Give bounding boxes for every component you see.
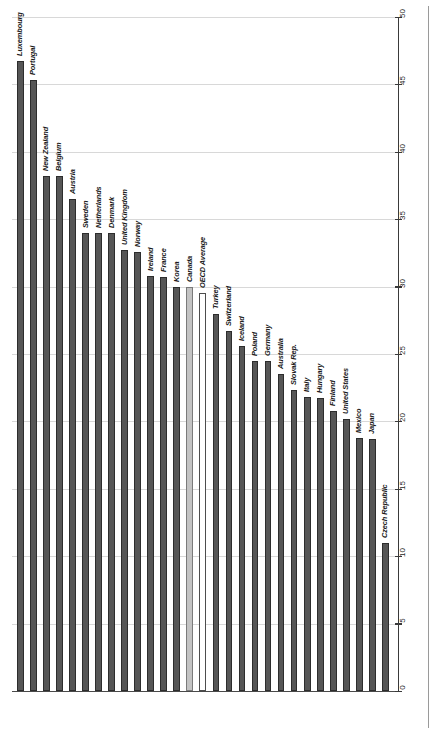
plot-area: LuxembourgPortugalNew ZealandBelgiumAust…	[12, 18, 398, 692]
bar[interactable]	[56, 176, 63, 691]
bar-slot: Austria	[69, 17, 76, 691]
bar[interactable]	[160, 277, 167, 691]
bar-slot: Germany	[265, 17, 272, 691]
bar-category-label: Denmark	[107, 197, 116, 228]
bar-slot: OECD Average	[199, 17, 206, 691]
bar-category-label: United Kingdom	[120, 190, 129, 246]
bar-slot: Japan	[369, 17, 376, 691]
bar[interactable]	[252, 361, 259, 691]
bar-category-label: Turkey	[211, 285, 220, 309]
axis-tick-label: 0	[398, 685, 407, 689]
bar-slot: Australia	[278, 17, 285, 691]
bar[interactable]	[82, 233, 89, 691]
bar-slot: Italy	[304, 17, 311, 691]
bar-slot: Czech Republic	[382, 17, 389, 691]
bar[interactable]	[343, 419, 350, 691]
bar-slot: Norway	[134, 17, 141, 691]
bar[interactable]	[108, 233, 115, 691]
bar-slot: United States	[343, 17, 350, 691]
page-margin-rule	[428, 6, 429, 728]
axis-tick-label: 15	[398, 481, 407, 490]
bar[interactable]	[147, 276, 154, 691]
bar-category-label: Netherlands	[94, 186, 103, 228]
bar-slot: Belgium	[56, 17, 63, 691]
bar-category-label: Australia	[276, 339, 285, 370]
bar-slot: United Kingdom	[121, 17, 128, 691]
bar-category-label: OECD Average	[198, 237, 207, 288]
bar[interactable]	[30, 80, 37, 691]
bar[interactable]	[43, 176, 50, 691]
bar-slot: France	[160, 17, 167, 691]
bar-category-label: Sweden	[81, 200, 90, 227]
axis-tick-label: 45	[398, 76, 407, 85]
bar[interactable]	[213, 314, 220, 691]
bar-category-label: Slovak Rep.	[289, 345, 298, 386]
bar-category-label: New Zealand	[41, 127, 50, 171]
bar[interactable]	[356, 438, 363, 691]
bar[interactable]	[304, 397, 311, 691]
bar-category-label: Luxembourg	[15, 13, 24, 57]
bar[interactable]	[369, 439, 376, 691]
bar-slot: Canada	[186, 17, 193, 691]
bar-slot: Hungary	[317, 17, 324, 691]
bar[interactable]	[199, 293, 206, 691]
bar-slot: Portugal	[30, 17, 37, 691]
bar[interactable]	[239, 346, 246, 691]
bar-category-label: Mexico	[354, 408, 363, 432]
bar-category-label: Canada	[185, 256, 194, 282]
bar-slot: Slovak Rep.	[291, 17, 298, 691]
axis-tick-label: 20	[398, 413, 407, 422]
bar[interactable]	[69, 199, 76, 691]
bar-series: LuxembourgPortugalNew ZealandBelgiumAust…	[17, 18, 398, 691]
axis-tick	[395, 623, 402, 624]
bar-category-label: Germany	[263, 324, 272, 355]
bar-category-label: Poland	[250, 332, 259, 356]
bar-category-label: Finland	[328, 380, 337, 406]
axis-tick-label: 10	[398, 548, 407, 557]
bar[interactable]	[330, 411, 337, 691]
axis-tick-label: 35	[398, 211, 407, 220]
bar-category-label: Norway	[133, 220, 142, 246]
bar-category-label: Japan	[367, 413, 376, 434]
bar[interactable]	[278, 374, 285, 691]
bar-chart: LuxembourgPortugalNew ZealandBelgiumAust…	[0, 0, 437, 735]
bar-category-label: Portugal	[28, 46, 37, 75]
bar[interactable]	[382, 543, 389, 691]
bar-category-label: Iceland	[237, 316, 246, 341]
bar-slot: Ireland	[147, 17, 154, 691]
bar[interactable]	[134, 252, 141, 691]
bar-category-label: Korea	[172, 261, 181, 281]
bar-slot: New Zealand	[43, 17, 50, 691]
bar-category-label: Belgium	[54, 143, 63, 171]
bar[interactable]	[173, 287, 180, 691]
bar[interactable]	[186, 287, 193, 691]
bar-slot: Luxembourg	[17, 17, 24, 691]
bar-slot: Iceland	[239, 17, 246, 691]
bar[interactable]	[121, 250, 128, 691]
axis-tick-label: 50	[398, 9, 407, 18]
bar-category-label: Italy	[302, 378, 311, 392]
bar-category-label: Ireland	[146, 247, 155, 271]
axis-tick-label: 5	[398, 618, 407, 622]
bar[interactable]	[226, 331, 233, 691]
bar[interactable]	[265, 361, 272, 691]
bar-slot: Turkey	[213, 17, 220, 691]
bar[interactable]	[17, 61, 24, 691]
axis-tick-label: 25	[398, 346, 407, 355]
bar-category-label: Switzerland	[224, 286, 233, 326]
bar-category-label: United States	[341, 368, 350, 414]
axis-tick	[395, 691, 402, 692]
bar-slot: Switzerland	[226, 17, 233, 691]
bar-category-label: France	[159, 249, 168, 273]
bar-slot: Finland	[330, 17, 337, 691]
bar[interactable]	[317, 398, 324, 691]
bar-slot: Korea	[173, 17, 180, 691]
bar-slot: Sweden	[82, 17, 89, 691]
bar-category-label: Hungary	[315, 364, 324, 393]
bar[interactable]	[95, 233, 102, 691]
bar-slot: Poland	[252, 17, 259, 691]
axis-tick-label: 30	[398, 279, 407, 288]
bar-category-label: Austria	[68, 169, 77, 194]
bar-slot: Denmark	[108, 17, 115, 691]
bar[interactable]	[291, 390, 298, 691]
